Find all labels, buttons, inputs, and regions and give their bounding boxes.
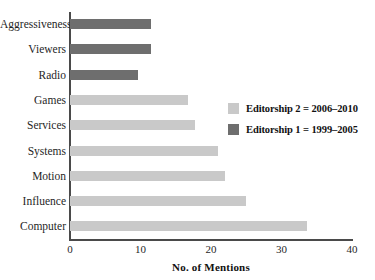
bar — [70, 70, 138, 80]
bar-row: Systems — [0, 139, 375, 164]
category-label: Games — [0, 94, 66, 106]
category-label: Viewers — [0, 43, 66, 55]
bar-row: Motion — [0, 164, 375, 189]
category-label: Systems — [0, 145, 66, 157]
category-label: Influence — [0, 195, 66, 207]
category-label: Computer — [0, 220, 66, 232]
bar — [70, 221, 307, 231]
x-tick-label: 20 — [196, 243, 226, 255]
legend-swatch-icon — [228, 124, 239, 135]
bar — [70, 95, 188, 105]
bar-row: Radio — [0, 63, 375, 88]
bar — [70, 120, 195, 130]
legend-label: Editorship 2 = 2006–2010 — [246, 103, 358, 114]
chart-legend: Editorship 2 = 2006–2010Editorship 1 = 1… — [228, 99, 358, 141]
category-label: Aggressiveness — [0, 18, 66, 30]
category-label: Motion — [0, 170, 66, 182]
bar — [70, 19, 151, 29]
legend-swatch-icon — [228, 103, 239, 114]
bar — [70, 146, 218, 156]
x-axis-title: No. of Mentions — [70, 261, 352, 273]
bar — [70, 171, 225, 181]
bar — [70, 44, 151, 54]
legend-item: Editorship 2 = 2006–2010 — [228, 99, 358, 117]
x-tick-label: 10 — [126, 243, 156, 255]
x-tick-label: 30 — [267, 243, 297, 255]
x-tick-label: 0 — [55, 243, 85, 255]
bar-chart: AggressivenessViewersRadioGamesServicesS… — [0, 0, 375, 280]
bar-row: Computer — [0, 214, 375, 239]
category-label: Services — [0, 119, 66, 131]
bar-row: Influence — [0, 189, 375, 214]
bar-row: Aggressiveness — [0, 12, 375, 37]
x-tick-label: 40 — [337, 243, 367, 255]
legend-label: Editorship 1 = 1999–2005 — [246, 124, 358, 135]
bar — [70, 196, 246, 206]
legend-item: Editorship 1 = 1999–2005 — [228, 120, 358, 138]
bar-row: Viewers — [0, 37, 375, 62]
category-label: Radio — [0, 69, 66, 81]
